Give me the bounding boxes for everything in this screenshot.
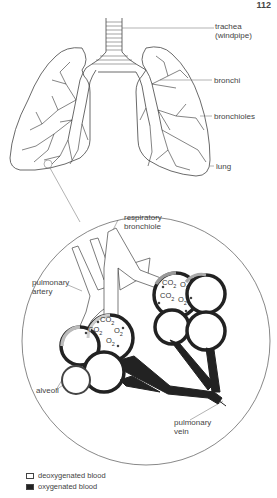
- label-pulmonary-artery-line1: pulmonary: [32, 278, 69, 287]
- page-number: 112: [256, 0, 271, 10]
- label-lung: lung: [216, 162, 231, 171]
- magnified-alveoli-circle: [22, 217, 270, 465]
- label-pulmonary-artery-line2: artery: [32, 287, 52, 296]
- gas-co2: CO2: [162, 278, 176, 289]
- label-respiratory-bronchiole-line1: respiratory: [124, 213, 162, 222]
- label-bronchioles: bronchioles: [214, 112, 255, 121]
- label-pulmonary-vein-line1: pulmonary: [174, 418, 211, 427]
- lungs-diagram: [0, 0, 277, 498]
- legend-label: deoxygenated blood: [38, 471, 106, 480]
- gas-co2: CO2: [160, 291, 174, 302]
- gas-o2: O2: [180, 280, 189, 291]
- right-bronchiole-tree: [140, 56, 206, 170]
- legend-item-oxygenated: oxygenated blood: [26, 481, 106, 492]
- left-bronchiole-tree: [22, 62, 88, 164]
- gas-co2: CO2: [100, 315, 114, 326]
- label-windpipe: (windpipe): [215, 31, 252, 40]
- label-alveoli: alveoli: [36, 386, 59, 395]
- legend-item-deoxygenated: deoxygenated blood: [26, 470, 106, 481]
- label-respiratory-bronchiole-line2: bronchiole: [124, 222, 161, 231]
- gas-o2: O2: [106, 336, 115, 347]
- label-bronchi: bronchi: [214, 76, 240, 85]
- deoxygenated-swatch-icon: [26, 473, 34, 479]
- legend-label: oxygenated blood: [38, 482, 97, 491]
- left-lung-outline: [10, 48, 90, 171]
- gas-o2: O2: [114, 326, 123, 337]
- legend: deoxygenated blood oxygenated blood: [26, 470, 106, 492]
- trachea: [68, 18, 162, 140]
- label-pulmonary-vein-line2: vein: [174, 427, 189, 436]
- label-trachea: trachea: [215, 22, 242, 31]
- gas-co2: CO2: [88, 325, 102, 336]
- oxygenated-swatch-icon: [26, 484, 34, 490]
- gas-o2: O2: [178, 295, 187, 306]
- pulmonary-vein-vessels: [120, 340, 226, 406]
